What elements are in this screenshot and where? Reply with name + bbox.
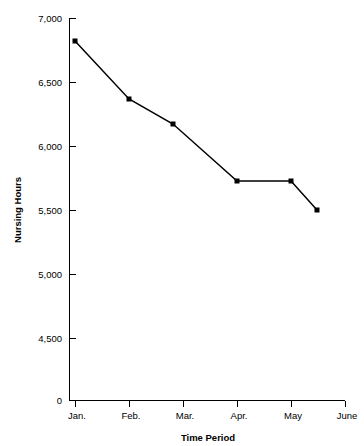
x-tick-label-may: May xyxy=(284,410,302,421)
y-tick-label-6500: 6,500 xyxy=(38,77,62,88)
y-axis-title: Nursing Hours xyxy=(12,177,23,243)
y-tick-label-5500: 5,500 xyxy=(38,205,62,216)
data-point-may xyxy=(289,179,294,184)
y-tick-label-5000: 5,000 xyxy=(38,269,62,280)
y-tick-label-0: 0 xyxy=(57,395,62,406)
data-point-apr xyxy=(235,179,240,184)
data-point-june xyxy=(315,208,320,213)
data-point-feb xyxy=(127,97,132,102)
chart-canvas: 7,000 6,500 6,000 5,500 5,000 4,500 0 Ja… xyxy=(0,0,364,446)
y-tick-label-7000: 7,000 xyxy=(38,13,62,24)
x-tick-label-apr: Apr. xyxy=(231,410,248,421)
y-tick-label-4500: 4,500 xyxy=(38,333,62,344)
data-point-mar xyxy=(171,122,176,127)
line-chart-figure: 7,000 6,500 6,000 5,500 5,000 4,500 0 Ja… xyxy=(0,0,364,446)
x-axis-title: Time Period xyxy=(181,432,235,443)
x-tick-label-jan: Jan. xyxy=(68,410,86,421)
data-point-jan xyxy=(73,39,78,44)
nursing-hours-line xyxy=(75,41,317,210)
x-tick-label-june: June xyxy=(337,410,358,421)
x-tick-label-feb: Feb. xyxy=(121,410,140,421)
y-tick-label-6000: 6,000 xyxy=(38,141,62,152)
x-tick-label-mar: Mar. xyxy=(176,410,194,421)
